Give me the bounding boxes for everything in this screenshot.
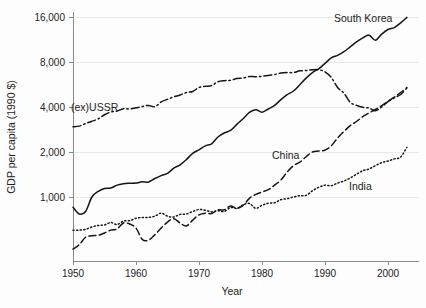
x-tick-label: 1970 (188, 268, 211, 279)
x-axis-title: Year (221, 285, 243, 297)
x-tick-label: 1980 (251, 268, 274, 279)
x-tick-label: 1960 (125, 268, 148, 279)
x-tick-label: 1950 (62, 268, 85, 279)
label-ex-ussr: (ex)USSR (71, 101, 119, 113)
series-line-ex-ussr (73, 70, 407, 127)
x-tick-label: 2000 (377, 268, 400, 279)
x-axis: 195019601970198019902000 (62, 261, 419, 279)
y-tick-label: 8,000 (40, 57, 65, 68)
y-tick-label: 4,000 (40, 102, 65, 113)
gdp-per-capita-line-chart: 16,0008,0004,0002,0001,000 1950196019701… (0, 0, 426, 308)
y-tick-label: 16,000 (34, 12, 65, 23)
label-south-korea: South Korea (334, 12, 393, 24)
y-axis: 16,0008,0004,0002,0001,000 (34, 12, 73, 262)
series-annotations: South Korea (ex)USSR China India (71, 12, 393, 192)
y-tick-label: 2,000 (40, 147, 65, 158)
label-china: China (272, 149, 300, 161)
axis-titles: Year GDP per capita (1990 $) (5, 80, 243, 297)
series-lines (73, 17, 407, 249)
label-india: India (349, 180, 372, 192)
y-axis-title: GDP per capita (1990 $) (5, 80, 17, 194)
x-tick-label: 1990 (314, 268, 337, 279)
series-line-china (73, 88, 407, 250)
y-tick-label: 1,000 (40, 192, 65, 203)
chart-page: 16,0008,0004,0002,0001,000 1950196019701… (0, 0, 426, 308)
